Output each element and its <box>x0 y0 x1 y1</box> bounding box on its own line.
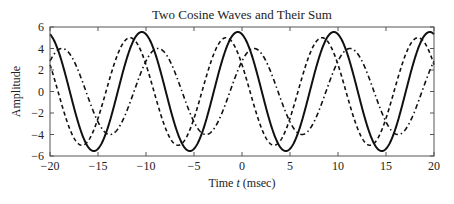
series-dashdot-line <box>50 49 434 135</box>
curves <box>50 32 434 151</box>
axes-frame <box>50 27 434 156</box>
plot-area: −20−15−10−505101520 −6−4−20246 <box>0 0 454 204</box>
y-tick-label: 4 <box>38 42 44 56</box>
y-tick-label: 0 <box>38 85 44 99</box>
y-tick-label: −4 <box>31 128 44 142</box>
x-tick-label: −10 <box>137 159 156 173</box>
y-tick-label: −2 <box>31 106 44 120</box>
y-tick-label: −6 <box>31 149 44 163</box>
x-tick-label: −5 <box>188 159 201 173</box>
x-tick-label: 0 <box>239 159 245 173</box>
y-tick-label: 2 <box>38 63 44 77</box>
x-tick-label: 10 <box>332 159 344 173</box>
x-tick-label: 20 <box>428 159 440 173</box>
x-tick-label: 5 <box>287 159 293 173</box>
x-tick-label: 15 <box>380 159 392 173</box>
x-tick-label: −15 <box>89 159 108 173</box>
y-tick-label: 6 <box>38 20 44 34</box>
